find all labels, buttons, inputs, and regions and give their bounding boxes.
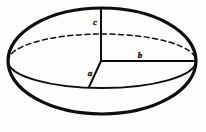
ellipsoid-diagram-svg: c b a [0,0,206,132]
figure-background [0,0,206,132]
semi-axis-b-label: b [138,50,143,60]
ellipsoid-figure: c b a [0,0,206,132]
semi-axis-c-label: c [93,17,97,27]
semi-axis-a-label: a [88,68,93,78]
